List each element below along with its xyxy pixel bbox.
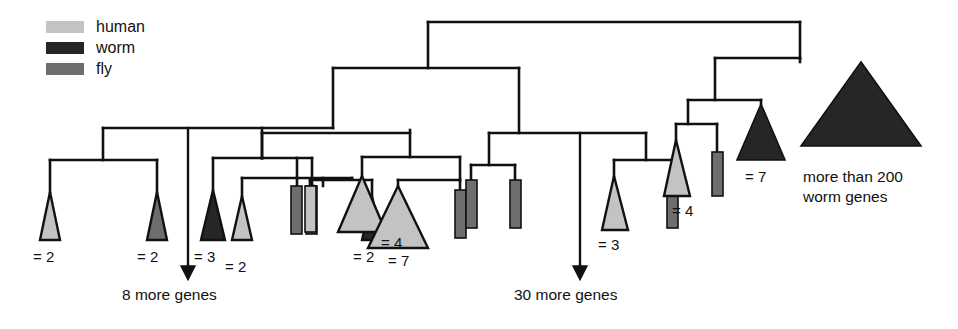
tree-canvas: human worm fly xyxy=(0,0,958,329)
tip-bar-fly-7 xyxy=(712,152,723,196)
tree-tips xyxy=(40,62,921,248)
label-8-more-genes: 8 more genes xyxy=(122,286,217,303)
legend-label-worm: worm xyxy=(95,39,135,56)
clade-triangle-c2-fly xyxy=(147,192,167,240)
legend-label-human: human xyxy=(96,18,145,35)
clade-label-c7: = 7 xyxy=(388,252,409,269)
legend-swatch-human xyxy=(46,21,84,33)
legend: human worm fly xyxy=(46,18,145,77)
clade-triangle-big-worm xyxy=(801,62,921,146)
clade-triangle-c10-worm xyxy=(737,104,785,160)
clade-label-c1: = 2 xyxy=(33,248,54,265)
tip-bar-human-1 xyxy=(305,186,316,232)
clade-label-c8: = 3 xyxy=(598,236,619,253)
clade-label-c10: = 7 xyxy=(745,168,766,185)
tip-bar-fly-2 xyxy=(291,186,302,234)
tip-bar-fly-4 xyxy=(466,180,477,228)
tip-bar-fly-3 xyxy=(455,190,466,238)
clade-label-c4: = 2 xyxy=(225,258,246,275)
label-30-more-genes: 30 more genes xyxy=(514,286,618,303)
clade-triangle-c3-worm xyxy=(201,190,225,240)
label-big-clade-line1: more than 200 xyxy=(803,168,903,185)
clade-label-c3: = 3 xyxy=(194,248,215,265)
label-big-clade-line2: worm genes xyxy=(802,188,888,205)
clade-triangle-c4-human xyxy=(232,196,252,240)
clade-label-c2: = 2 xyxy=(137,248,158,265)
clade-triangle-c8-human xyxy=(602,176,628,230)
clade-triangle-c1-human xyxy=(40,192,60,240)
legend-label-fly: fly xyxy=(96,60,112,77)
clade-label-c9: = 4 xyxy=(672,202,693,219)
legend-swatch-worm xyxy=(46,42,84,54)
clade-label-c6: = 4 xyxy=(381,234,402,251)
legend-swatch-fly xyxy=(46,63,84,75)
tip-bar-fly-5 xyxy=(510,180,521,228)
phylogenetic-tree-figure: human worm fly xyxy=(0,0,958,329)
clade-triangle-c9-human xyxy=(664,140,690,196)
clade-label-c5: = 2 xyxy=(353,248,374,265)
